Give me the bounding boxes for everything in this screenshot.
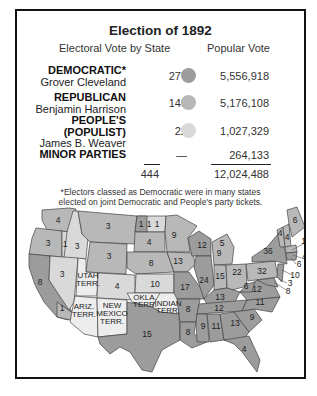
svg-text:32: 32	[257, 266, 267, 276]
candidate-name: Grover Cleveland	[40, 76, 126, 88]
svg-text:TERR.: TERR.	[76, 279, 100, 288]
svg-text:3: 3	[75, 241, 80, 251]
svg-text:8: 8	[38, 277, 43, 287]
svg-text:TERR.: TERR.	[133, 300, 157, 309]
svg-text:9: 9	[201, 321, 206, 331]
svg-text:5: 5	[220, 238, 225, 248]
svg-text:1: 1	[60, 303, 65, 313]
electoral-total: 444	[131, 168, 159, 180]
party-name: MINOR PARTIES	[39, 148, 126, 160]
svg-text:TERR.: TERR.	[156, 306, 180, 315]
svg-text:8: 8	[286, 286, 291, 296]
svg-text:3: 3	[106, 221, 111, 231]
svg-text:22: 22	[232, 267, 242, 277]
svg-text:9: 9	[217, 248, 222, 258]
election-1892-card: Election of 1892 Electoral Vote by State…	[15, 9, 306, 379]
svg-text:1: 1	[63, 239, 68, 249]
svg-text:15: 15	[215, 271, 225, 281]
svg-text:36: 36	[263, 246, 273, 256]
popular-count: 1,027,329	[220, 125, 269, 137]
svg-text:9: 9	[172, 230, 177, 240]
svg-text:TERR.: TERR.	[72, 310, 96, 319]
svg-text:4: 4	[285, 232, 290, 242]
us-electoral-map: 4 3 1 3 3 3 8 1 3 UTAHTERR. 4 ARIZ.TERR.…	[17, 201, 304, 379]
svg-text:3: 3	[46, 238, 51, 248]
svg-text:11: 11	[212, 321, 221, 331]
svg-text:12: 12	[197, 240, 207, 250]
party-name-2: (POPULIST)	[64, 126, 126, 138]
svg-text:24: 24	[199, 275, 209, 285]
svg-text:12: 12	[214, 303, 224, 313]
state-nj	[277, 264, 284, 282]
svg-text:12: 12	[252, 284, 262, 294]
svg-text:10: 10	[150, 279, 160, 289]
svg-text:4: 4	[278, 228, 283, 238]
svg-text:TERR.: TERR.	[100, 317, 124, 326]
svg-text:8: 8	[149, 258, 154, 268]
svg-text:3: 3	[60, 269, 65, 279]
popular-vote-header: Popular Vote	[207, 42, 270, 54]
svg-text:4: 4	[147, 237, 152, 247]
svg-text:9: 9	[250, 312, 255, 322]
svg-text:4: 4	[242, 344, 247, 354]
party-name: PEOPLE'S	[71, 114, 126, 126]
popular-total: 12,024,488	[214, 168, 269, 180]
svg-text:8: 8	[186, 304, 191, 314]
svg-text:1: 1	[155, 219, 160, 229]
svg-text:4: 4	[115, 281, 120, 291]
popular-count: 5,556,918	[220, 70, 269, 82]
svg-text:15: 15	[301, 236, 304, 246]
popular-count: 5,176,108	[220, 97, 269, 109]
svg-text:6: 6	[293, 215, 298, 225]
svg-text:1: 1	[147, 219, 152, 229]
svg-text:6: 6	[297, 259, 302, 269]
svg-text:17: 17	[180, 282, 190, 292]
svg-text:4: 4	[302, 252, 304, 262]
popular-total-rule	[211, 164, 271, 165]
electoral-count: —	[159, 149, 187, 161]
svg-text:13: 13	[173, 256, 183, 266]
electoral-vote-header: Electoral Vote by State	[59, 42, 170, 54]
party-name: DEMOCRATIC*	[48, 64, 126, 76]
card-title: Election of 1892	[17, 23, 304, 38]
svg-text:15: 15	[142, 329, 152, 339]
svg-text:4: 4	[56, 215, 61, 225]
electoral-total-rule	[144, 164, 160, 165]
republican-color-swatch	[181, 95, 196, 110]
democratic-color-swatch	[181, 68, 196, 83]
populist-color-swatch	[181, 123, 196, 138]
svg-text:11: 11	[256, 297, 265, 307]
svg-text:8: 8	[186, 327, 191, 337]
state-fl	[224, 336, 260, 372]
svg-text:1: 1	[139, 219, 144, 229]
svg-text:13: 13	[230, 318, 240, 328]
party-name: REPUBLICAN	[54, 91, 126, 103]
svg-text:13: 13	[215, 292, 225, 302]
popular-count: 264,133	[229, 149, 269, 161]
svg-text:3: 3	[107, 251, 112, 261]
candidate-name: Benjamin Harrison	[36, 103, 126, 115]
svg-text:6: 6	[244, 281, 249, 291]
